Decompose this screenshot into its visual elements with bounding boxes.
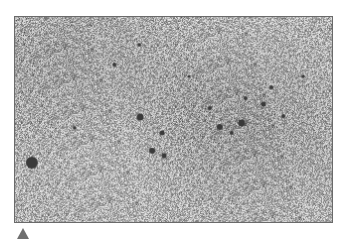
triangle-marker-icon [17, 228, 29, 239]
figure-stage [0, 0, 348, 239]
speckle-texture [15, 17, 332, 222]
micrograph-image [14, 16, 333, 223]
